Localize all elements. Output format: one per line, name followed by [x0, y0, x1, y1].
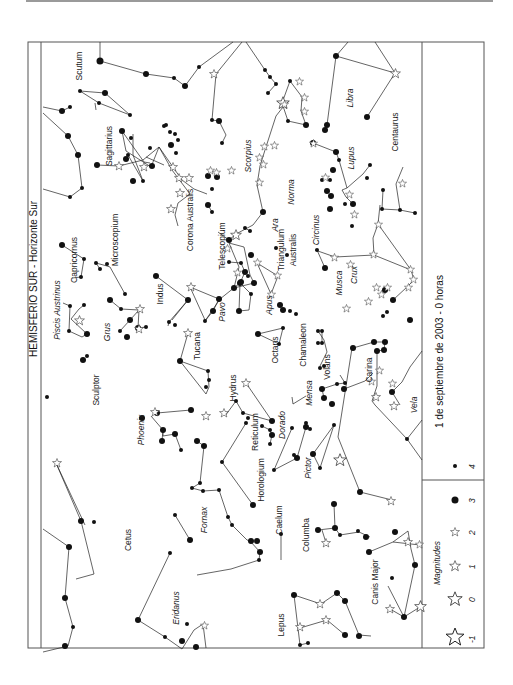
constellation-label-circinus: Circinus [311, 214, 321, 245]
constellation-label-chamaleon: Chamaleon [298, 323, 308, 367]
legend-label-2: 2 [467, 530, 477, 536]
constellation-label-lupus: Lupus [346, 146, 356, 170]
legend-star-minus1-icon [446, 628, 464, 645]
constellation-label-norma: Norma [286, 179, 296, 205]
chart-frame [28, 42, 484, 648]
constellation-label-eridanus: Eridanus [171, 590, 181, 624]
constellation-label-sculptor: Sculptor [91, 374, 101, 405]
constellation-label-scorpius: Scorpius [243, 139, 253, 173]
legend-label-0: 0 [467, 597, 477, 602]
constellation-label-canis-major: Canis Major [370, 559, 380, 605]
constellation-label-scutum: Scutum [74, 52, 84, 81]
constellation-label-phoenix: Phoenix [136, 414, 146, 445]
constellation-label-octans: Octans [270, 337, 280, 364]
legend-star-1-icon [450, 561, 461, 571]
legend-title: Magnitudes [432, 540, 442, 585]
constellation-label-fornax: Fornax [199, 506, 209, 533]
date-caption: 1 de septiembre de 2003 - 0 horas [434, 275, 445, 428]
constellation-label-piscis-austrinus: Piscis Austrinus [52, 279, 62, 339]
constellation-label-sagittarius: Sagittarius [104, 126, 114, 166]
star-chart: HEMISFERIO SUR - Horizonte Sur 1 de sept… [0, 0, 513, 685]
constellation-label-musca: Musca [334, 270, 344, 295]
constellation-label-capricornus: Capricornus [69, 237, 79, 283]
constellation-label-volans: Volans [322, 354, 332, 380]
constellation-label-tucana: Tucana [192, 332, 202, 360]
legend-label-minus1: -1 [467, 635, 477, 643]
constellation-label-telescopium: Telescopium [217, 222, 227, 269]
stars-dots [45, 53, 418, 650]
constellation-labels: ScutumLibraSagittariusScorpiusCentaurusL… [52, 52, 419, 637]
constellation-label-libra: Libra [345, 88, 355, 107]
constellation-label-cetus: Cetus [123, 529, 133, 551]
constellation-label-pavo: Pavo [217, 302, 227, 322]
constellation-label-horologium: Horologium [256, 458, 266, 501]
constellation-label-triangulum: Triangulum [276, 229, 286, 271]
constellation-label-crux: Crux [349, 265, 359, 284]
constellation-label-microscopium: Microscopium [110, 214, 120, 266]
legend-star-0-icon [448, 592, 462, 606]
constellation-label-apus: Apus [264, 295, 274, 316]
constellation-label-vela: Vela [409, 396, 419, 413]
magnitude-legend: Magnitudes -1 0 1 2 3 4 [422, 464, 484, 645]
constellation-label-grus: Grus [102, 322, 112, 341]
constellation-label-hydrus: Hydrus [228, 375, 238, 402]
constellation-label-caelum: Caelum [274, 505, 284, 534]
constellation-label-lepus: Lepus [276, 613, 286, 636]
legend-label-1: 1 [467, 564, 477, 569]
constellation-label-pictor: Pictor [303, 456, 313, 479]
legend-label-3: 3 [467, 498, 477, 503]
constellation-label-columba: Columba [301, 518, 311, 552]
constellation-label-carina: Carina [364, 357, 374, 382]
constellation-label-dorado: Dorado [277, 411, 287, 439]
legend-star-2-icon [451, 528, 460, 537]
constellation-label-corona-australis: Corona Australis [185, 189, 195, 251]
legend-label-4: 4 [467, 464, 477, 469]
legend-dot-3-icon [452, 497, 459, 504]
constellation-label-centaurus: Centaurus [390, 112, 400, 151]
constellation-label-australis: Australis [288, 234, 298, 267]
constellation-label-mensa: Mensa [304, 380, 314, 406]
legend-dot-4-icon [453, 464, 457, 468]
constellation-lines [43, 42, 422, 652]
chart-title: HEMISFERIO SUR - Horizonte Sur [28, 200, 39, 357]
constellation-label-reticulum: Reticulum [250, 413, 260, 451]
constellation-label-indus: Indus [155, 284, 165, 305]
